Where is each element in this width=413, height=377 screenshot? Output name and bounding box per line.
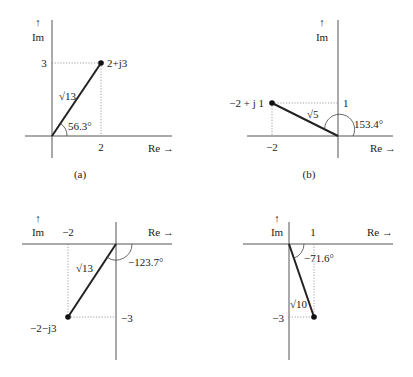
real-axis-label: Re →	[370, 142, 396, 154]
panel-b: ↑ Im Re → 1 −2 −2 + j 1 √5 153.4° (b)	[229, 16, 396, 181]
up-arrow-icon: ↑	[319, 16, 325, 28]
point-label: 2+j3	[107, 57, 128, 69]
magnitude-label: √10	[290, 298, 308, 310]
x-tick-label: −2	[266, 141, 278, 153]
imag-axis-label: Im	[271, 226, 284, 238]
angle-label: 153.4°	[354, 118, 383, 130]
point-marker	[311, 314, 317, 320]
magnitude-label: √13	[76, 262, 94, 274]
magnitude-label: √13	[59, 90, 77, 102]
point-label: −2−j3	[30, 322, 57, 334]
x-tick-label: 1	[310, 226, 316, 238]
imag-axis-label: Im	[32, 31, 45, 43]
caption: (b)	[303, 168, 316, 181]
up-arrow-icon: ↑	[274, 212, 280, 224]
caption: (a)	[74, 168, 87, 181]
angle-label: −71.6°	[304, 252, 334, 264]
y-tick-label: 1	[343, 97, 349, 109]
imag-axis-label: Im	[316, 31, 329, 43]
panel-c: ↑ Im Re → −2 −3 −2−j3 √13 −123.7°	[22, 212, 174, 360]
point-marker	[98, 60, 104, 66]
panel-a: ↑ Im Re → 3 2 2+j3 √13 56.3° (a)	[25, 16, 174, 181]
real-axis-label: Re →	[148, 226, 174, 238]
complex-plane-figure: ↑ Im Re → 3 2 2+j3 √13 56.3° (a) ↑ Im Re…	[0, 0, 413, 377]
real-axis-label: Re →	[367, 226, 393, 238]
point-marker	[65, 314, 71, 320]
up-arrow-icon: ↑	[35, 16, 41, 28]
phasor-vector	[68, 244, 116, 317]
angle-arc	[325, 114, 355, 136]
point-label: −2 + j 1	[229, 97, 264, 109]
point-marker	[269, 100, 275, 106]
magnitude-label: √5	[307, 108, 319, 120]
imag-axis-label: Im	[32, 226, 45, 238]
up-arrow-icon: ↑	[35, 212, 41, 224]
y-tick-label: 3	[41, 57, 47, 69]
angle-arc	[294, 244, 304, 258]
angle-label: 56.3°	[68, 120, 92, 132]
x-tick-label: 2	[98, 141, 104, 153]
x-tick-label: −2	[62, 226, 74, 238]
y-tick-label: −3	[121, 312, 133, 324]
panel-d: ↑ Im Re → 1 −3 √10 −71.6°	[243, 212, 393, 360]
angle-arc	[60, 124, 67, 137]
angle-label: −123.7°	[128, 256, 163, 268]
y-tick-label: −3	[272, 312, 284, 324]
real-axis-label: Re →	[148, 142, 174, 154]
